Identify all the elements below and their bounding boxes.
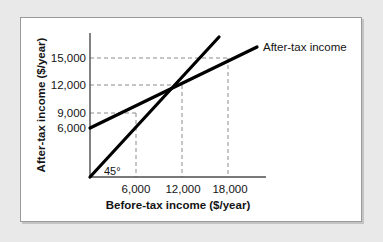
- y-tick-label-9000: 9,000: [57, 107, 86, 119]
- y-tick-label-12000: 12,000: [51, 79, 86, 91]
- y-tick-label-6000: 6,000: [57, 122, 86, 134]
- x-tick-labels-group: 6,000 12,000 18,000: [122, 183, 248, 195]
- annotation-after-tax-income: After-tax income: [263, 41, 347, 53]
- chart-canvas: 15,000 12,000 9,000 6,000 6,000 12,000 1…: [0, 0, 383, 242]
- annotation-45-degree: 45°: [104, 165, 121, 177]
- y-tick-label-15000: 15,000: [51, 52, 86, 64]
- series-group: [90, 37, 257, 177]
- y-tick-labels-group: 15,000 12,000 9,000 6,000: [51, 52, 86, 134]
- y-axis-title: After-tax income ($/year): [35, 37, 47, 172]
- series-line-after-tax-income[interactable]: [90, 47, 257, 128]
- x-tick-label-18000: 18,000: [212, 183, 247, 195]
- figure-root: 15,000 12,000 9,000 6,000 6,000 12,000 1…: [0, 0, 383, 242]
- x-tick-label-12000: 12,000: [165, 183, 200, 195]
- x-tick-label-6000: 6,000: [122, 183, 151, 195]
- x-axis-title: Before-tax income ($/year): [106, 199, 251, 211]
